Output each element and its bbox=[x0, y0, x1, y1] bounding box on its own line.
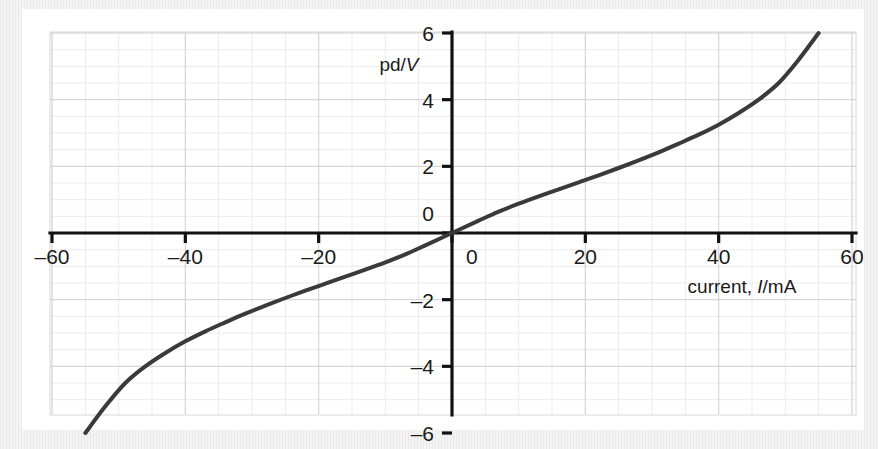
x-tick-label: –60 bbox=[34, 245, 69, 268]
x-axis-tick-labels: –60–40–200204060 bbox=[34, 245, 863, 268]
x-axis-title: current, I/mA bbox=[688, 276, 797, 297]
x-tick-label: 40 bbox=[707, 245, 730, 268]
figure-frame: –60–40–200204060 6420–2–4–6 current, I/m… bbox=[0, 0, 878, 449]
x-tick-label: 60 bbox=[840, 245, 863, 268]
y-tick-label: 6 bbox=[422, 22, 434, 45]
y-axis-title: pd/V bbox=[379, 54, 420, 75]
x-tick-label: –20 bbox=[301, 245, 336, 268]
x-tick-label: 0 bbox=[466, 245, 478, 268]
y-tick-label: –4 bbox=[411, 355, 435, 378]
y-tick-label: –2 bbox=[411, 289, 434, 312]
y-tick-label: 4 bbox=[422, 89, 434, 112]
x-tick-label: 20 bbox=[574, 245, 597, 268]
y-tick-label: –6 bbox=[411, 422, 434, 445]
x-tick-label: –40 bbox=[168, 245, 203, 268]
y-tick-label: 2 bbox=[422, 155, 434, 178]
axes bbox=[50, 32, 856, 415]
chart-canvas: –60–40–200204060 6420–2–4–6 current, I/m… bbox=[0, 0, 878, 449]
y-tick-label: 0 bbox=[422, 202, 434, 225]
